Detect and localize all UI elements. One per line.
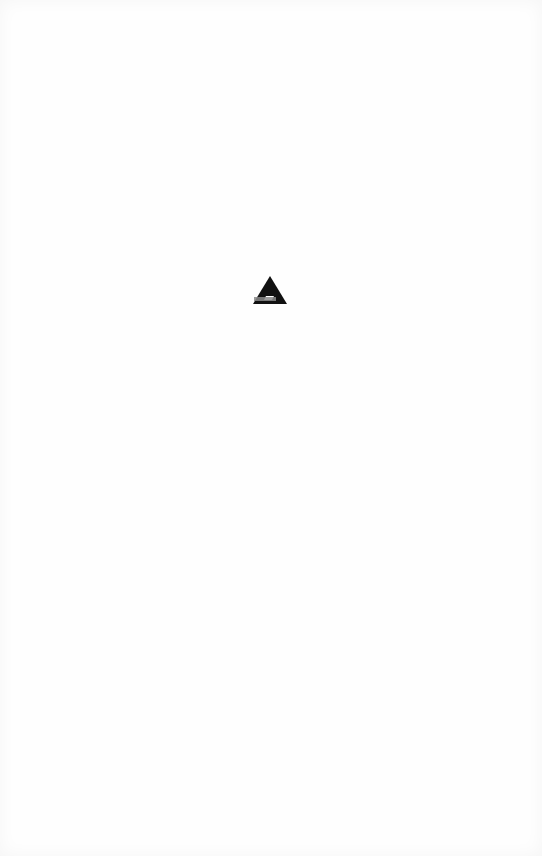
splash-screen: A (0, 0, 542, 856)
logo-alt-text: A (252, 305, 253, 306)
triangle-a-logo-icon (252, 275, 288, 305)
app-logo: A (252, 275, 288, 305)
